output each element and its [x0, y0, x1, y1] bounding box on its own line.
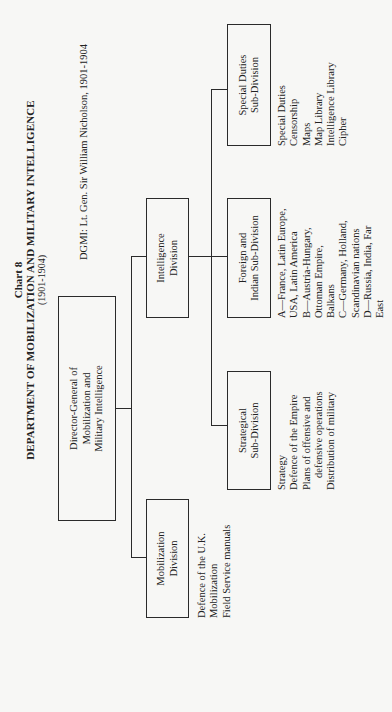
- duty-item: USA, Latin America: [288, 208, 300, 318]
- director-general-box: Director-General of Mobilization and Mil…: [58, 296, 116, 521]
- box-label-line: Mobilization: [155, 531, 168, 585]
- duty-item: Defence of the Empire: [288, 391, 300, 490]
- connector-line: [211, 89, 227, 90]
- box-label-line: Sub-Division: [249, 403, 262, 459]
- connector-line: [131, 557, 146, 558]
- duty-item: C—Germany, Holland,: [337, 208, 349, 318]
- duty-item: B—Austria-Hungary,: [301, 208, 313, 318]
- duty-item: Scandinavian nations: [350, 208, 362, 318]
- intelligence-division-box: Intelligence Division: [146, 198, 189, 318]
- duty-item: Ottoman Empire,: [313, 208, 325, 318]
- box-label-line: Intelligence: [155, 233, 168, 283]
- dgmi-note: DGMI: Lt. Gen. Sir William Nicholson, 19…: [78, 44, 89, 260]
- box-label-line: Indian Sub-Division: [249, 215, 262, 300]
- duty-item: A—France, Latin Europe,: [276, 208, 288, 318]
- foreign-indian-subdivision-box: Foreign and Indian Sub-Division: [227, 198, 271, 318]
- box-label-line: Mobilization and: [81, 365, 94, 452]
- org-chart: Chart 8 DEPARTMENT OF MOBILIZATION AND M…: [0, 0, 392, 712]
- duty-item: Strategy: [276, 391, 288, 490]
- box-label-line: Strategical: [237, 403, 250, 459]
- duty-item: Balkans: [325, 208, 337, 318]
- duty-item: East: [374, 208, 386, 318]
- box-label-line: Foreign and: [237, 215, 250, 300]
- chart-title: DEPARTMENT OF MOBILIZATION AND MILITARY …: [24, 80, 36, 480]
- box-label-line: Military Intelligence: [93, 365, 106, 452]
- duty-item: Defence of the U.K.: [196, 525, 208, 618]
- strategical-subdivision-box: Strategical Sub-Division: [227, 371, 271, 490]
- duty-item: Plans of offensive and: [301, 391, 313, 490]
- box-label-line: Sub-Division: [249, 55, 262, 116]
- duty-item: D—Russia, India, Far: [362, 208, 374, 318]
- box-label-line: Special Duties: [237, 55, 250, 116]
- special-duties-subdivision-box: Special Duties Sub-Division: [227, 24, 271, 146]
- connector-line: [189, 256, 211, 257]
- box-label-line: Director-General of: [68, 365, 81, 452]
- duty-item: Field Service manuals: [221, 525, 233, 618]
- duty-item: Censorship: [288, 62, 300, 146]
- duty-item: Map Library: [313, 62, 325, 146]
- connector-line: [131, 256, 146, 257]
- chart-number: Chart 8: [12, 80, 24, 480]
- duty-item: Distribution of military: [325, 391, 337, 490]
- special-duties-list: Special Duties Censorship Maps Map Libra…: [276, 62, 350, 146]
- duty-item: Mobilization: [208, 525, 220, 618]
- mobilization-division-box: Mobilization Division: [146, 499, 189, 618]
- duty-item: Maps: [301, 62, 313, 146]
- strategical-duties-list: Strategy Defence of the Empire Plans of …: [276, 391, 337, 490]
- duty-item: Cipher: [337, 62, 349, 146]
- connector-line: [211, 425, 227, 426]
- connector-line: [211, 256, 227, 257]
- box-label-line: Division: [168, 531, 181, 585]
- duty-item: Intelligence Library: [325, 62, 337, 146]
- foreign-indian-duties-list: A—France, Latin Europe, USA, Latin Ameri…: [276, 208, 387, 318]
- chart-years: (1901-1904): [36, 80, 47, 480]
- box-label-line: Division: [168, 233, 181, 283]
- connector-line: [131, 256, 132, 558]
- duty-item: Special Duties: [276, 62, 288, 146]
- connector-line: [211, 89, 212, 426]
- chart-header: Chart 8 DEPARTMENT OF MOBILIZATION AND M…: [12, 80, 47, 480]
- mobilization-duties-list: Defence of the U.K. Mobilization Field S…: [196, 525, 233, 618]
- duty-item: defensive operations: [313, 391, 325, 490]
- connector-line: [116, 408, 131, 409]
